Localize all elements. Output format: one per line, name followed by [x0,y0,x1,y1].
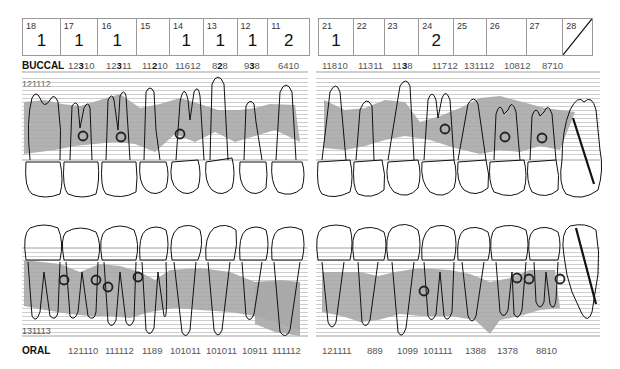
tooth-number: 11 [271,21,280,31]
tooth-value: 1 [61,31,98,51]
oral-values-row-left: 121111 889 1099 101111 1388 1378 8810 [322,345,612,357]
oral-value-36: 1378 [497,345,518,356]
tooth-cell-14[interactable]: 141 [170,19,204,55]
tooth-number: 26 [490,21,500,31]
tooth-cell-15[interactable]: 15 [137,19,170,55]
tooth-cell-13[interactable]: 131 [204,19,238,55]
tooth-number: 16 [101,21,111,31]
oral-label: ORAL [22,345,50,356]
tooth-number: 17 [64,21,74,31]
tooth-cell-16[interactable]: 161 [98,19,137,55]
tooth-cell-26[interactable]: 26 [487,19,527,55]
tooth-number: 13 [207,21,217,31]
oral-value-34: 101111 [423,345,453,356]
tooth-number: 12 [241,21,251,31]
tooth-cell-25[interactable]: 25 [454,19,487,55]
missing-tooth-slash-icon [563,19,592,55]
oral-value-37: 8810 [536,345,557,356]
tooth-value: 1 [238,31,268,51]
oral-value-48: 121110 [68,345,98,356]
tooth-number: 14 [173,21,183,31]
tooth-cell-28-missing[interactable]: 28 [563,19,592,55]
tooth-number: 18 [26,21,36,31]
oral-value-33: 1099 [397,345,418,356]
tooth-cell-17[interactable]: 171 [61,19,99,55]
oral-value-41: 111112 [272,345,301,356]
oral-value-35: 1388 [465,345,486,356]
oral-value-42: 10911 [242,345,268,356]
tooth-cell-11[interactable]: 112 [268,19,309,55]
tooth-value: 1 [170,31,203,51]
tooth-cell-23[interactable]: 23 [385,19,420,55]
tooth-number: 21 [322,21,332,31]
tooth-cell-22[interactable]: 22 [354,19,385,55]
oral-value-46: 1189 [142,345,162,356]
tooth-value: 1 [204,31,237,51]
oral-value-32: 889 [367,345,383,356]
oral-value-43: 101011 [206,345,237,356]
oral-value-44: 101011 [170,345,201,356]
tooth-number: 24 [422,21,432,31]
tooth-number: 25 [457,21,467,31]
tooth-cell-27[interactable]: 27 [527,19,564,55]
tooth-cell-24[interactable]: 242 [419,19,454,55]
tooth-value: 1 [23,31,60,51]
tooth-number: 27 [530,21,540,31]
tooth-value: 1 [319,31,353,51]
upper-left-tooth-table: 211 22 23 242 25 26 27 28 [318,18,593,56]
tooth-number: 15 [140,21,150,31]
oral-value-47: 111112 [105,345,134,356]
tooth-cell-18[interactable]: 181 [23,19,61,55]
tooth-value: 2 [268,31,309,51]
upper-right-tooth-table: 181 171 161 15 141 131 121 112 [22,18,310,56]
oral-scale-label: 131113 [22,326,51,336]
tooth-value: 2 [419,31,453,51]
tooth-cell-21[interactable]: 211 [319,19,354,55]
tooth-cell-12[interactable]: 121 [238,19,269,55]
tooth-number: 22 [357,21,367,31]
tooth-value: 1 [98,31,136,51]
oral-values-row-right: ORAL 121110 111112 1189 101011 101011 10… [22,345,312,357]
oral-value-31: 121111 [322,345,352,356]
tooth-number: 23 [388,21,398,31]
upper-jaw-chart [0,70,620,210]
lower-jaw-chart [0,212,620,342]
